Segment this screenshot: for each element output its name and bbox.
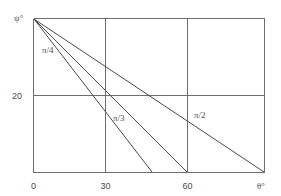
- series-annotation-pi-2: π/2: [194, 110, 206, 120]
- x-tick-label-60: 60: [182, 181, 192, 191]
- x-tick-label-0: 0: [31, 181, 36, 191]
- line-chart-svg: π/4 π/3 π/2 ψ° 20 0 30 60 θ°: [0, 0, 281, 196]
- x-tick-label-30: 30: [100, 181, 110, 191]
- y-axis-title: ψ°: [14, 13, 24, 23]
- chart-figure: π/4 π/3 π/2 ψ° 20 0 30 60 θ°: [0, 0, 281, 196]
- x-axis-title: θ°: [257, 181, 265, 191]
- series-annotation-pi-4: π/4: [42, 45, 54, 55]
- y-tick-label-20: 20: [12, 91, 22, 101]
- series-annotation-pi-3: π/3: [113, 113, 125, 123]
